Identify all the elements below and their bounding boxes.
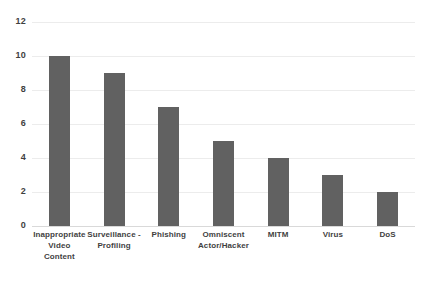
y-tick-label: 10 <box>2 51 26 60</box>
bar <box>377 192 398 226</box>
x-tick-label: Inappropriate Video Content <box>29 229 89 262</box>
x-tick-label: MITM <box>248 229 308 240</box>
bar-chart: 12 10 8 6 4 2 0 Inappropriate Video Cont… <box>0 0 433 284</box>
bar <box>213 141 234 226</box>
bar <box>158 107 179 226</box>
y-tick-label: 12 <box>2 17 26 26</box>
x-tick-label: Surveillance - Profiling <box>84 229 144 251</box>
x-tick-label: Phishing <box>139 229 199 240</box>
bar <box>104 73 125 226</box>
y-tick-label: 0 <box>2 221 26 230</box>
bars-layer <box>32 22 415 226</box>
bar <box>49 56 70 226</box>
x-tick-label: Omniscent Actor/Hacker <box>194 229 254 251</box>
bar <box>268 158 289 226</box>
x-tick-label: DoS <box>358 229 418 240</box>
y-tick-label: 2 <box>2 187 26 196</box>
y-tick-label: 6 <box>2 119 26 128</box>
axis-baseline <box>32 226 415 227</box>
bar <box>322 175 343 226</box>
x-axis-category-labels: Inappropriate Video Content Surveillance… <box>32 229 415 279</box>
y-tick-label: 8 <box>2 85 26 94</box>
y-tick-label: 4 <box>2 153 26 162</box>
x-tick-label: Virus <box>303 229 363 240</box>
